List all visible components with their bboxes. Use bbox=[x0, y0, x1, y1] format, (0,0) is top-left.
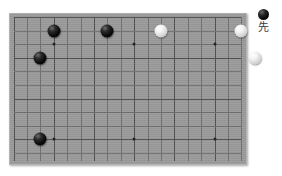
white-stone[interactable] bbox=[154, 24, 167, 37]
grid-line-horizontal bbox=[14, 112, 242, 113]
go-board[interactable] bbox=[9, 13, 247, 165]
star-point bbox=[133, 43, 136, 46]
grid-line-horizontal bbox=[14, 71, 242, 72]
black-stone-icon bbox=[258, 9, 269, 20]
star-point bbox=[213, 43, 216, 46]
go-diagram-root: 先 bbox=[0, 0, 282, 176]
black-stone[interactable] bbox=[34, 133, 47, 146]
grid-line-horizontal bbox=[14, 99, 242, 100]
black-stone[interactable] bbox=[47, 24, 60, 37]
legend: 先 bbox=[258, 9, 282, 34]
white-stone[interactable] bbox=[248, 51, 261, 64]
grid-line-horizontal bbox=[14, 85, 242, 86]
grid-line-vertical bbox=[241, 17, 242, 161]
star-point bbox=[213, 138, 216, 141]
black-stone[interactable] bbox=[101, 24, 114, 37]
grid-line-horizontal bbox=[14, 58, 242, 59]
star-point bbox=[133, 138, 136, 141]
star-point bbox=[52, 138, 55, 141]
star-point bbox=[52, 43, 55, 46]
legend-label: 先 bbox=[258, 22, 282, 34]
grid-line-horizontal bbox=[14, 153, 242, 154]
grid-line-horizontal bbox=[14, 126, 242, 127]
grid-line-horizontal bbox=[14, 17, 242, 18]
black-stone[interactable] bbox=[34, 51, 47, 64]
grid-line-horizontal bbox=[14, 139, 242, 140]
white-stone[interactable] bbox=[235, 24, 248, 37]
grid-line-horizontal bbox=[14, 44, 242, 45]
